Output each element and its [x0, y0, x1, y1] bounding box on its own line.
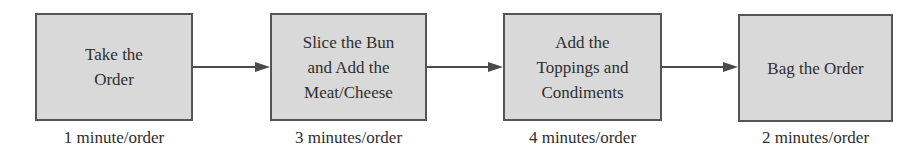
- step-time-label: 3 minutes/order: [270, 128, 427, 148]
- step-box-slice-bun: Slice the Bun and Add the Meat/Cheese: [270, 13, 427, 121]
- step-time-label: 2 minutes/order: [738, 128, 893, 148]
- step-box-take-order: Take the Order: [35, 13, 193, 121]
- arrow-right-icon: [662, 61, 738, 73]
- step-time-label: 1 minute/order: [35, 128, 193, 148]
- arrow-right-icon: [193, 61, 270, 73]
- step-label: Slice the Bun and Add the Meat/Cheese: [303, 30, 395, 105]
- step-time-label: 4 minutes/order: [503, 128, 662, 148]
- step-label: Take the Order: [85, 42, 143, 92]
- step-box-bag-order: Bag the Order: [738, 14, 893, 122]
- step-label: Bag the Order: [767, 56, 863, 81]
- step-box-add-toppings: Add the Toppings and Condiments: [503, 13, 662, 121]
- arrow-right-icon: [427, 61, 503, 73]
- step-label: Add the Toppings and Condiments: [537, 30, 629, 105]
